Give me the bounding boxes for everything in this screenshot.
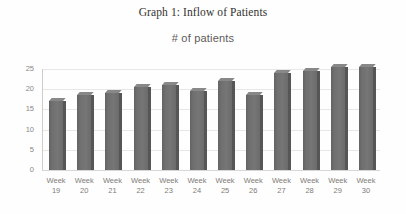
x-tick-label: Week26 [239,176,267,195]
bar[interactable] [331,67,345,170]
x-tick-label: Week22 [127,176,155,195]
bar-side-face [345,67,348,170]
bar-front-face [134,87,148,170]
bar-front-face [331,67,345,170]
bar[interactable] [218,81,232,170]
bar-front-face [359,67,373,170]
bar-side-face [63,101,66,170]
chart-figure: Graph 1: Inflow of Patients # of patient… [0,0,406,214]
bar[interactable] [105,93,119,170]
x-tick-label-line1: Week [42,176,70,186]
x-tick-label: Week27 [267,176,295,195]
bar-front-face [274,73,288,170]
x-tick-label-line2: 22 [127,186,155,196]
bar[interactable] [162,85,176,170]
y-tick-label: 25 [26,65,34,73]
bar-front-face [303,71,317,170]
x-tick-label: Week30 [352,176,380,195]
y-axis-labels: 0510152025 [0,0,40,214]
bar-side-face [373,67,376,170]
y-tick-label: 10 [26,126,34,134]
bar-front-face [190,91,204,170]
bar-side-face [260,95,263,170]
bar[interactable] [77,95,91,170]
y-tick-label: 5 [30,146,34,154]
x-tick-label: Week25 [211,176,239,195]
bar-side-face [148,87,151,170]
x-tick-label-line2: 26 [239,186,267,196]
bar[interactable] [49,101,63,170]
x-tick-label-line1: Week [324,176,352,186]
bar-side-face [176,85,179,170]
bar-side-face [119,93,122,170]
x-tick-label-line2: 28 [296,186,324,196]
bar-side-face [91,95,94,170]
bar-front-face [246,95,260,170]
x-tick-label-line1: Week [211,176,239,186]
x-tick-label-line2: 27 [267,186,295,196]
x-tick-label: Week20 [70,176,98,195]
x-tick-label-line1: Week [183,176,211,186]
x-tick-label-line2: 20 [70,186,98,196]
bar-side-face [317,71,320,170]
x-tick-label-line2: 19 [42,186,70,196]
bar-front-face [49,101,63,170]
bar-side-face [204,91,207,170]
bar-side-face [288,73,291,170]
x-tick-label: Week29 [324,176,352,195]
bar-front-face [162,85,176,170]
chart-subtitle: # of patients [0,32,406,44]
x-tick-label: Week28 [296,176,324,195]
bar[interactable] [274,73,288,170]
y-tick-label: 0 [30,166,34,174]
x-tick-label: Week23 [155,176,183,195]
x-tick-label-line2: 24 [183,186,211,196]
x-tick-label-line2: 21 [98,186,126,196]
bar[interactable] [190,91,204,170]
x-tick-label-line2: 23 [155,186,183,196]
bar-front-face [218,81,232,170]
x-tick-label-line1: Week [70,176,98,186]
x-tick-label-line2: 30 [352,186,380,196]
x-tick-label: Week24 [183,176,211,195]
bar-front-face [105,93,119,170]
bar[interactable] [303,71,317,170]
bar[interactable] [359,67,373,170]
x-tick-label-line1: Week [155,176,183,186]
x-axis-labels: Week19Week20Week21Week22Week23Week24Week… [42,176,380,210]
x-tick-label-line2: 29 [324,186,352,196]
x-tick-label-line1: Week [98,176,126,186]
bar[interactable] [134,87,148,170]
x-tick-label-line1: Week [127,176,155,186]
y-tick-label: 15 [26,105,34,113]
bar[interactable] [246,95,260,170]
x-tick-label: Week19 [42,176,70,195]
x-tick-label-line1: Week [296,176,324,186]
x-tick-label-line1: Week [352,176,380,186]
x-tick-label-line2: 25 [211,186,239,196]
x-tick-label: Week21 [98,176,126,195]
bar-side-face [232,81,235,170]
chart-title: Graph 1: Inflow of Patients [0,6,406,18]
y-tick-label: 20 [26,85,34,93]
bar-front-face [77,95,91,170]
bars-layer [42,60,380,171]
x-tick-label-line1: Week [239,176,267,186]
x-tick-label-line1: Week [267,176,295,186]
